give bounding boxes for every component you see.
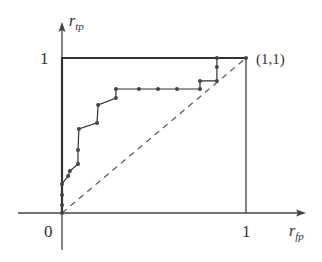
roc-point-marker <box>114 87 118 91</box>
y-tick-one: 1 <box>40 49 49 68</box>
x-tick-one: 1 <box>242 222 251 241</box>
roc-point-marker <box>215 79 219 83</box>
roc-point-marker <box>68 169 72 173</box>
roc-point-marker <box>60 211 64 215</box>
roc-point-marker <box>95 121 99 125</box>
roc-point-marker <box>175 87 179 91</box>
x-axis-label: rfp <box>289 222 304 242</box>
roc-point-marker <box>156 87 160 91</box>
roc-chart: rtp 1 (1,1) 0 1 rfp <box>0 0 322 262</box>
roc-point-marker <box>60 182 64 186</box>
roc-point-marker <box>66 174 70 178</box>
roc-point-marker <box>60 203 64 207</box>
roc-point-marker <box>76 148 80 152</box>
roc-point-marker <box>137 87 141 91</box>
roc-point-marker <box>60 193 64 197</box>
roc-point-marker <box>198 79 202 83</box>
roc-point-marker <box>76 162 80 166</box>
roc-point-marker <box>215 56 219 60</box>
roc-point-marker <box>215 65 219 69</box>
origin-label: 0 <box>44 222 53 241</box>
roc-point-marker <box>244 56 248 60</box>
corner-label: (1,1) <box>256 51 285 68</box>
y-axis-label: rtp <box>69 12 84 32</box>
roc-point-marker <box>96 103 100 107</box>
roc-point-marker <box>114 96 118 100</box>
roc-point-marker <box>198 87 202 91</box>
roc-point-marker <box>77 127 81 131</box>
